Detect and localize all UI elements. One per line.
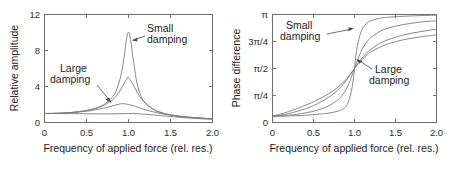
phase-xtick-0: 0 [270,127,275,138]
amplitude-xtick-1p0: 1.0 [122,127,135,138]
resonance-figure-pair: 12 8 4 0 0 0.5 1.0 1.5 2.0 Frequency of … [0,0,449,174]
amplitude-small-damping-line2: damping [147,33,187,45]
phase-x-axis-title: Frequency of applied force (rel. res.) [269,142,438,154]
phase-small-damping-arrow-line [327,29,352,34]
amplitude-annotation-small-damping: Small damping [132,22,187,45]
phase-xtick-0p5: 0.5 [307,127,320,138]
phase-small-damping-arrow-head [348,27,354,31]
curve-gamma-0-7-large-damping- [273,35,437,116]
amplitude-ytick-12: 12 [29,9,40,20]
phase-ytick-3pi4: 3π/4 [248,36,268,47]
phase-xtick-1p5: 1.5 [389,127,402,138]
phase-annotation-large-damping: Large damping [356,59,409,86]
phase-chart-svg: π 3π/4 π/2 π/4 0 0 0.5 1.0 1.5 2.0 Frequ… [224,0,449,174]
amplitude-x-axis-title: Frequency of applied force (rel. res.) [43,142,212,154]
phase-annotation-small-damping: Small damping [280,19,354,42]
phase-chart-panel: π 3π/4 π/2 π/4 0 0 0.5 1.0 1.5 2.0 Frequ… [224,0,449,174]
amplitude-xtick-0: 0 [42,127,47,138]
amplitude-y-axis-title: Relative amplitude [8,25,20,112]
amplitude-ytick-0: 0 [35,117,40,128]
curve-gamma-1-0-large-damping- [45,113,213,119]
amplitude-chart-svg: 12 8 4 0 0 0.5 1.0 1.5 2.0 Frequency of … [0,0,224,174]
phase-y-axis-title: Phase difference [230,29,242,108]
amplitude-xtick-0p5: 0.5 [80,127,93,138]
phase-ytick-pi: π [261,9,268,20]
curve-gamma-0-5 [45,104,213,119]
phase-xtick-2p0: 2.0 [430,127,443,138]
amplitude-annotation-large-damping: Large damping [50,62,112,103]
phase-ytick-pi2: π/2 [254,63,268,74]
amplitude-chart-panel: 12 8 4 0 0 0.5 1.0 1.5 2.0 Frequency of … [0,0,224,174]
phase-xtick-1p0: 1.0 [348,127,361,138]
phase-large-damping-line2: damping [369,74,409,86]
phase-ytick-0: 0 [263,117,268,128]
amplitude-xtick-2p0: 2.0 [206,127,219,138]
amplitude-small-damping-arrow-head [132,38,138,42]
amplitude-ytick-4: 4 [35,81,40,92]
amplitude-xtick-1p5: 1.5 [164,127,177,138]
amplitude-large-damping-arrow-head [106,98,112,104]
amplitude-ytick-8: 8 [35,45,40,56]
phase-ytick-pi4: π/4 [254,90,268,101]
phase-small-damping-line2: damping [280,30,320,42]
amplitude-large-damping-line2: damping [50,73,90,85]
